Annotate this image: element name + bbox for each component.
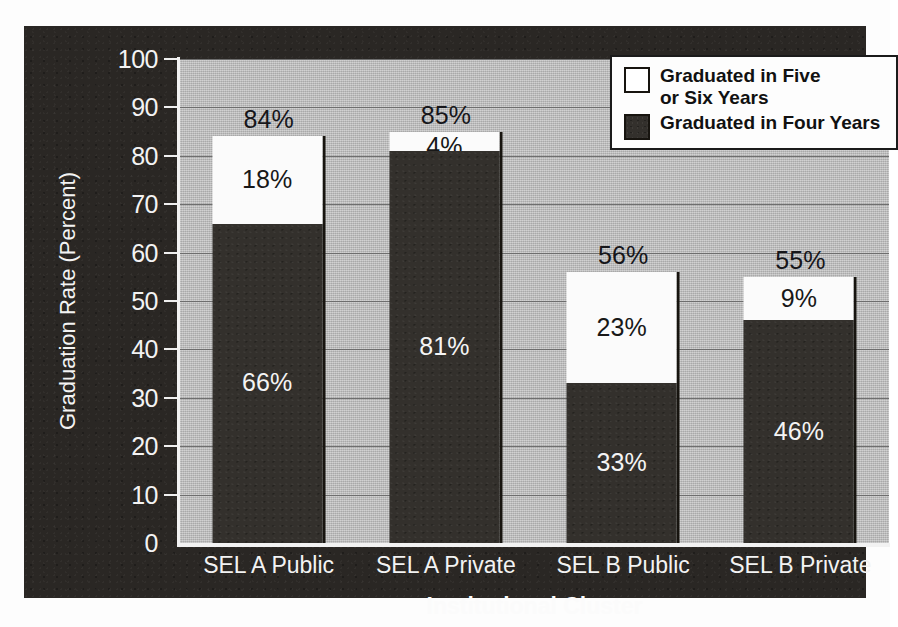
- y-tick-mark: [164, 494, 177, 496]
- stacked-bar[interactable]: 23%33%: [567, 272, 680, 543]
- y-tick-label: 10: [84, 482, 158, 507]
- y-tick-mark: [164, 203, 177, 205]
- y-axis-line: [177, 57, 180, 547]
- bar-segment-four-years[interactable]: 33%: [567, 383, 677, 543]
- chart-legend: Graduated in Fiveor Six Years Graduated …: [610, 55, 898, 150]
- y-tick-mark: [164, 58, 177, 60]
- y-tick-label: 40: [84, 337, 158, 362]
- bar-segment-five-or-six-years[interactable]: 4%: [389, 132, 499, 151]
- y-tick-label: 80: [84, 143, 158, 168]
- x-tick-label: SEL B Public: [535, 554, 712, 577]
- legend-label-line-2: or Six Years: [660, 87, 768, 108]
- y-tick-mark: [164, 397, 177, 399]
- stacked-bar[interactable]: 9%46%: [744, 277, 857, 543]
- x-axis-title: Institutional Cluster: [180, 595, 889, 618]
- y-axis-title-container: Graduation Rate (Percent): [51, 59, 85, 543]
- legend-label-four-years: Graduated in Four Years: [660, 112, 880, 134]
- y-tick-mark: [164, 348, 177, 350]
- bar-segment-value-label: 18%: [212, 167, 322, 192]
- y-tick-label: 30: [84, 385, 158, 410]
- y-tick-label: 0: [84, 531, 158, 556]
- bar-segment-four-years[interactable]: 46%: [744, 320, 854, 543]
- legend-item-four-years: Graduated in Four Years: [624, 112, 886, 140]
- bar-segment-value-label: 33%: [567, 450, 677, 475]
- x-tick-label: SEL A Public: [180, 554, 357, 577]
- bar-segment-value-label: 9%: [744, 286, 854, 311]
- x-tick-label: SEL B Private: [712, 554, 889, 577]
- y-tick-label: 60: [84, 240, 158, 265]
- chart-panel: Graduation Rate (Percent) 01020304050607…: [25, 27, 865, 597]
- bar-segment-value-label: 46%: [744, 419, 854, 444]
- stacked-bar[interactable]: 4%81%: [389, 132, 502, 543]
- bar-group: 4%81%85%: [357, 59, 534, 543]
- bar-segment-four-years[interactable]: 66%: [212, 224, 322, 543]
- legend-label-five-or-six-years: Graduated in Fiveor Six Years: [660, 65, 820, 110]
- y-tick-mark: [164, 300, 177, 302]
- y-tick-mark: [164, 252, 177, 254]
- bar-total-label: 85%: [421, 103, 471, 128]
- y-tick-mark: [164, 106, 177, 108]
- bar-total-label: 84%: [244, 107, 294, 132]
- bar-segment-five-or-six-years[interactable]: 18%: [212, 136, 322, 223]
- bar-segment-value-label: 23%: [567, 315, 677, 340]
- y-tick-label: 20: [84, 434, 158, 459]
- legend-item-five-or-six-years: Graduated in Fiveor Six Years: [624, 65, 886, 110]
- legend-label-line-1: Graduated in Five: [660, 65, 820, 86]
- x-tick-label: SEL A Private: [357, 554, 534, 577]
- x-axis-line: [177, 543, 890, 547]
- y-tick-mark: [164, 155, 177, 157]
- bar-total-label: 55%: [775, 248, 825, 273]
- bar-group: 18%66%84%: [180, 59, 357, 543]
- stacked-bar[interactable]: 18%66%: [212, 136, 325, 543]
- bar-segment-four-years[interactable]: 81%: [389, 151, 499, 543]
- y-tick-label: 100: [84, 47, 158, 72]
- y-tick-label: 70: [84, 192, 158, 217]
- y-tick-label: 90: [84, 95, 158, 120]
- white-swatch-icon: [624, 67, 650, 93]
- y-axis-title: Graduation Rate (Percent): [55, 172, 81, 430]
- bar-total-label: 56%: [598, 243, 648, 268]
- y-tick-mark: [164, 445, 177, 447]
- dark-swatch-icon: [624, 114, 650, 140]
- bar-segment-five-or-six-years[interactable]: 9%: [744, 277, 854, 321]
- bar-segment-value-label: 81%: [389, 334, 499, 359]
- y-tick-label: 50: [84, 289, 158, 314]
- bar-segment-value-label: 66%: [212, 370, 322, 395]
- bar-segment-five-or-six-years[interactable]: 23%: [567, 272, 677, 383]
